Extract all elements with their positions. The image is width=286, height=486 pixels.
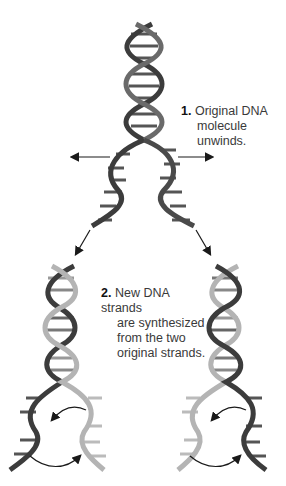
step-2-line1: New DNA strands [101, 286, 169, 315]
step-1-line2: molecule unwinds. [181, 119, 286, 149]
step-2-line2: are synthesized [101, 316, 211, 331]
step-2-line4: original strands. [101, 346, 211, 361]
step-1-line1: Original DNA [195, 104, 268, 118]
step-2-label: 2. New DNA strands are synthesized from … [101, 286, 211, 361]
step-2-number: 2. [101, 286, 111, 300]
unwinding-fork [92, 140, 194, 226]
step-1-label: 1. Original DNA molecule unwinds. [181, 104, 286, 149]
arrow-to-right-copy [196, 230, 210, 254]
original-dna-helix [126, 24, 162, 140]
step-1-number: 1. [181, 104, 191, 118]
step-2-line3: from the two [101, 331, 211, 346]
daughter-helix-left [10, 266, 106, 470]
arrow-to-left-copy [76, 230, 90, 254]
dna-replication-diagram [0, 0, 286, 486]
